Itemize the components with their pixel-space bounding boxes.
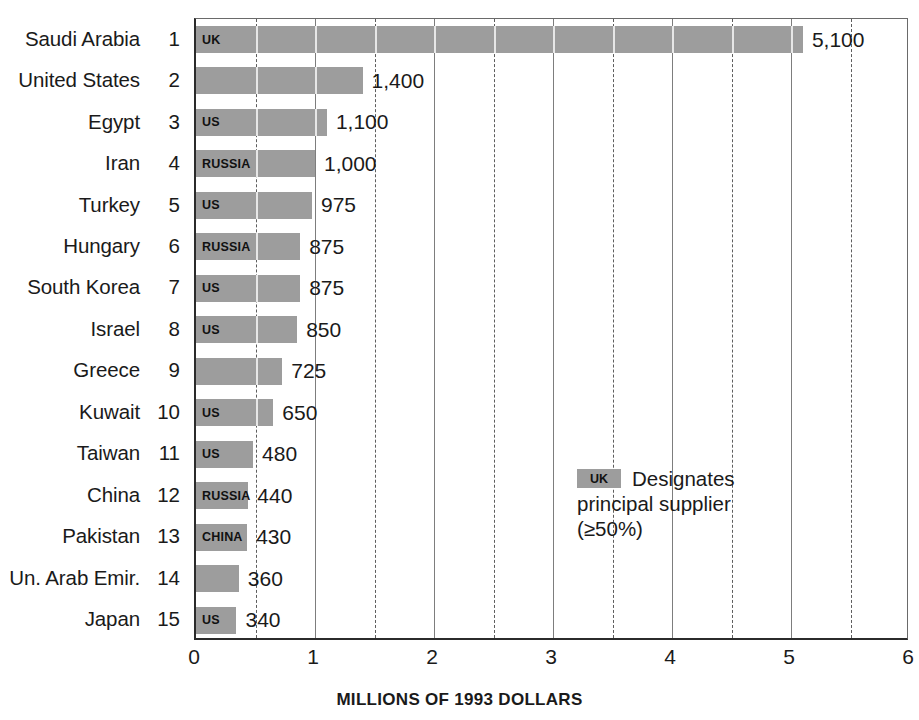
bar-value-label: 650	[282, 399, 317, 426]
bar	[196, 358, 282, 385]
x-tick-label: 6	[902, 645, 914, 669]
bar-value-label: 480	[262, 441, 297, 468]
bar	[196, 67, 363, 94]
bar-gridline-notch	[256, 150, 258, 177]
bar-row: US650	[196, 392, 907, 433]
bar	[196, 233, 300, 260]
legend-line-3: (≥50%)	[577, 516, 787, 541]
bar-gridline-notch	[256, 26, 258, 53]
category-rank: 6	[146, 234, 180, 258]
category-rank: 8	[146, 317, 180, 341]
x-tick-label: 0	[188, 645, 200, 669]
category-name: Greece	[73, 358, 140, 382]
bar-row: CHINA430	[196, 517, 907, 558]
bar-gridline-notch	[256, 275, 258, 302]
bar-row: US875	[196, 268, 907, 309]
legend-text: Designates	[632, 466, 735, 491]
category-name: Pakistan	[62, 524, 140, 548]
bar-value-label: 875	[309, 275, 344, 302]
category-rank: 11	[146, 441, 180, 465]
category-name: United States	[18, 68, 140, 92]
bar	[196, 109, 327, 136]
bar	[196, 316, 297, 343]
bar-value-label: 5,100	[812, 26, 865, 53]
bar-value-label: 975	[321, 192, 356, 219]
chart-canvas: Saudi Arabia1United States2Egypt3Iran4Tu…	[0, 0, 919, 720]
bar-row: 1,400	[196, 60, 907, 101]
legend-header: UK Designates	[577, 466, 787, 491]
bar-gridline-notch	[434, 26, 436, 53]
x-tick-label: 1	[307, 645, 319, 669]
bar-gridline-notch	[315, 67, 317, 94]
category-label-column: Saudi Arabia1United States2Egypt3Iran4Tu…	[0, 18, 188, 640]
category-name: Hungary	[63, 234, 140, 258]
bar-gridline-notch	[672, 26, 674, 53]
category-label-row: China12	[0, 474, 188, 515]
bar	[196, 565, 239, 592]
category-label-row: Greece9	[0, 350, 188, 391]
bar-gridline-notch	[494, 26, 496, 53]
bar	[196, 192, 312, 219]
category-name: Taiwan	[77, 441, 140, 465]
bar-value-label: 440	[257, 482, 292, 509]
category-rank: 9	[146, 358, 180, 382]
bar-gridline-notch	[613, 26, 615, 53]
category-rank: 2	[146, 68, 180, 92]
bar	[196, 482, 248, 509]
category-rank: 5	[146, 193, 180, 217]
category-name: Kuwait	[79, 400, 140, 424]
bar-row: UK5,100	[196, 19, 907, 60]
bar-value-label: 1,400	[372, 67, 425, 94]
category-name: Egypt	[88, 110, 140, 134]
bar-gridline-notch	[553, 26, 555, 53]
bar-row: RUSSIA1,000	[196, 143, 907, 184]
bar-row: US850	[196, 309, 907, 350]
category-name: China	[87, 483, 140, 507]
category-label-row: South Korea7	[0, 267, 188, 308]
legend-swatch: UK	[577, 469, 621, 488]
category-rank: 3	[146, 110, 180, 134]
category-label-row: United States2	[0, 59, 188, 100]
bar-gridline-notch	[256, 399, 258, 426]
category-label-row: Iran4	[0, 142, 188, 183]
category-name: South Korea	[27, 275, 140, 299]
category-label-row: Japan15	[0, 599, 188, 640]
bar-row: US480	[196, 434, 907, 475]
category-label-row: Israel8	[0, 308, 188, 349]
category-label-row: Pakistan13	[0, 516, 188, 557]
category-rank: 15	[146, 607, 180, 631]
category-rank: 12	[146, 483, 180, 507]
bar	[196, 26, 803, 53]
bar-gridline-notch	[256, 67, 258, 94]
legend-line-2: principal supplier	[577, 491, 787, 516]
bar-value-label: 360	[248, 565, 283, 592]
category-label-row: Un. Arab Emir.14	[0, 557, 188, 598]
bar-row: 725	[196, 351, 907, 392]
category-name: Israel	[90, 317, 140, 341]
x-tick-label: 3	[545, 645, 557, 669]
category-name: Turkey	[79, 193, 140, 217]
bar-row: US340	[196, 600, 907, 641]
bar-gridline-notch	[375, 26, 377, 53]
x-tick-label: 5	[783, 645, 795, 669]
bar-row: RUSSIA875	[196, 226, 907, 267]
category-label-row: Hungary6	[0, 225, 188, 266]
bar-gridline-notch	[256, 316, 258, 343]
category-rank: 13	[146, 524, 180, 548]
bar-row: RUSSIA440	[196, 475, 907, 516]
category-name: Un. Arab Emir.	[9, 566, 140, 590]
category-rank: 10	[146, 400, 180, 424]
bar	[196, 399, 273, 426]
bar-gridline-notch	[791, 26, 793, 53]
bar-gridline-notch	[256, 109, 258, 136]
bar-gridline-notch	[256, 192, 258, 219]
category-name: Saudi Arabia	[25, 27, 140, 51]
x-tick-label: 2	[426, 645, 438, 669]
category-label-row: Egypt3	[0, 101, 188, 142]
bar-value-label: 725	[291, 358, 326, 385]
bar-gridline-notch	[256, 233, 258, 260]
bar-row: 360	[196, 558, 907, 599]
bar	[196, 524, 247, 551]
bar-gridline-notch	[315, 109, 317, 136]
legend: UK Designates principal supplier (≥50%)	[577, 466, 787, 541]
